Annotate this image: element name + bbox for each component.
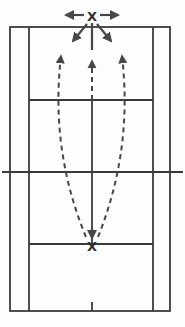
court-outer-boundary [10, 27, 170, 311]
receiver-marker: X [87, 9, 97, 24]
badminton-court-svg: X X [0, 0, 185, 327]
shuttle-path-right-arrow-icon [98, 56, 125, 237]
shuttle-path-left-arrow-icon [58, 56, 86, 237]
court-diagram: X X [0, 0, 185, 327]
server-marker: X [87, 239, 97, 254]
